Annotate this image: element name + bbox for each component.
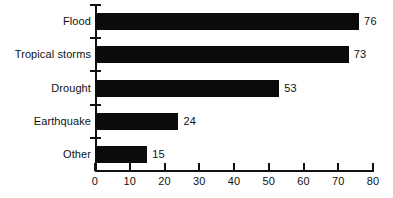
- bar: [95, 13, 359, 30]
- category-label: Earthquake: [34, 113, 91, 130]
- y-axis-tick: [90, 37, 101, 39]
- bar: [95, 80, 279, 97]
- y-axis-tick: [90, 104, 101, 106]
- x-axis-tick: [94, 163, 96, 171]
- x-axis-tick: [233, 163, 235, 171]
- category-label: Other: [63, 146, 91, 163]
- bar-value-label: 15: [152, 146, 165, 163]
- bar-value-label: 73: [354, 46, 367, 63]
- category-label: Tropical storms: [15, 46, 91, 63]
- category-label: Flood: [63, 13, 91, 30]
- x-axis-tick: [337, 163, 339, 171]
- x-axis-tick-label: 80: [353, 175, 393, 187]
- x-axis-tick: [372, 163, 374, 171]
- bar-value-label: 76: [364, 13, 377, 30]
- x-axis-tick: [198, 163, 200, 171]
- bar-value-label: 24: [183, 113, 196, 130]
- y-axis-tick: [90, 70, 101, 72]
- bar-value-label: 53: [284, 80, 297, 97]
- y-axis-tick: [90, 137, 101, 139]
- bar-chart: 01020304050607080 FloodTropical stormsDr…: [0, 0, 393, 198]
- y-axis-tick: [90, 4, 101, 6]
- x-axis-tick: [268, 163, 270, 171]
- bar: [95, 146, 147, 163]
- bar: [95, 46, 349, 63]
- bar: [95, 113, 178, 130]
- x-axis-tick: [129, 163, 131, 171]
- category-label: Drought: [51, 80, 91, 97]
- x-axis-tick: [303, 163, 305, 171]
- x-axis-tick: [164, 163, 166, 171]
